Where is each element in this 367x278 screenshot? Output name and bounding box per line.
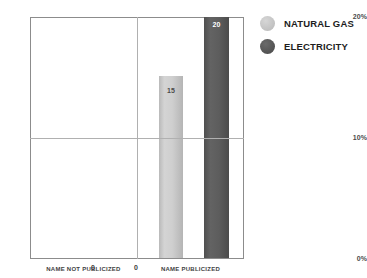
bar-publicized-natural-gas: 15: [159, 76, 183, 258]
bar-value-publicized-electricity: 20: [204, 21, 229, 29]
x-axis-label-name-publicized: NAME PUBLICIZED: [137, 265, 244, 273]
legend-label-electricity: ELECTRICITY: [284, 41, 348, 52]
x-axis-label-name-not-publicized: NAME NOT PUBLICIZED: [30, 265, 137, 273]
legend-label-natural-gas: NATURAL GAS: [284, 18, 354, 29]
gridline-vertical-category-divider: [137, 17, 138, 259]
bar-chart: 20% 10% 0% 0 0 15 20 NAME NOT PUBLICIZED…: [0, 0, 367, 278]
legend-item-electricity: ELECTRICITY: [260, 35, 367, 58]
y-axis-tick-0: 0%: [339, 255, 367, 263]
bar-value-publicized-natural-gas: 15: [159, 87, 183, 95]
y-axis-tick-10: 10%: [339, 134, 367, 142]
legend-swatch-circle-icon: [260, 16, 275, 31]
legend-swatch-circle-icon: [260, 39, 275, 54]
legend: NATURAL GAS ELECTRICITY: [260, 12, 367, 58]
legend-item-natural-gas: NATURAL GAS: [260, 12, 367, 35]
